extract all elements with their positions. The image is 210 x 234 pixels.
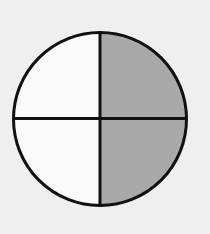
fraction-circle-svg [0,0,210,234]
fraction-diagram [0,0,210,234]
